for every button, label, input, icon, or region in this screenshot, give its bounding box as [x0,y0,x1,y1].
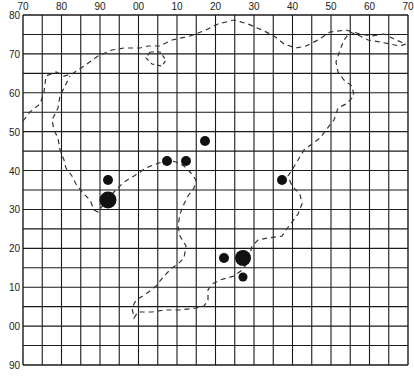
left-axis-label: 70 [9,49,21,60]
marker-dot-site-7 [219,253,229,263]
marker-dot-site-5 [200,136,210,146]
top-axis-label: 80 [56,1,68,12]
marker-dot-site-6 [277,175,287,185]
top-axis-label: 00 [133,1,145,12]
left-axis-label: 90 [9,360,21,371]
top-axis-label: 40 [287,1,299,12]
top-axis-labels: 7080900010203040506070 [17,1,414,12]
marker-dot-site-9 [239,273,248,282]
left-axis-label: 30 [9,204,21,215]
marker-dot-site-2 [100,192,117,209]
grid-map: 7080900010203040506070 80706050403020100… [0,0,414,376]
top-axis-label: 50 [325,1,337,12]
marker-dot-site-3 [162,156,172,166]
left-axis-label: 60 [9,88,21,99]
left-axis-label: 40 [9,166,21,177]
left-axis-label: 20 [9,243,21,254]
left-axis-label: 50 [9,127,21,138]
marker-dot-site-4 [181,156,191,166]
top-axis-label: 10 [171,1,183,12]
top-axis-label: 60 [364,1,376,12]
left-axis-label: 80 [9,10,21,21]
marker-dot-site-8 [235,250,251,266]
left-axis-labels: 80706050403020100090 [9,10,21,371]
left-axis-label: 10 [9,282,21,293]
left-axis-label: 00 [9,321,21,332]
top-axis-label: 30 [248,1,260,12]
top-axis-label: 70 [402,1,414,12]
marker-dot-site-1 [103,175,113,185]
marker-layer [100,136,288,282]
top-axis-label: 20 [210,1,222,12]
top-axis-label: 90 [94,1,106,12]
